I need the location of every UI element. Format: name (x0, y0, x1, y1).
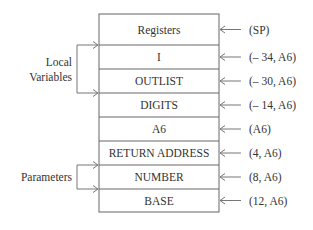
cell-label: RETURN ADDRESS (109, 147, 210, 159)
bracket-line (77, 165, 98, 189)
stack-cell: DIGITS (99, 93, 219, 111)
group-bracket: Parameters (21, 162, 98, 193)
address-label: (4, A6) (249, 147, 282, 160)
address-pointer: (SP) (220, 24, 270, 37)
group-brackets: LocalVariablesParameters (21, 42, 98, 193)
cell-label: DIGITS (140, 99, 178, 111)
stack-cell: BASE (99, 189, 219, 207)
cell-label: BASE (144, 195, 173, 207)
address-pointer: (– 30, A6) (220, 75, 296, 88)
bracket-line (77, 45, 98, 93)
cell-label: I (157, 51, 161, 63)
address-pointer: (– 14, A6) (220, 99, 296, 112)
address-pointer: (A6) (220, 123, 271, 136)
group-label: Variables (29, 71, 72, 83)
cell-label: NUMBER (134, 171, 184, 183)
address-label: (8, A6) (249, 171, 282, 184)
stack-cell: I (99, 45, 219, 63)
cell-label: Registers (138, 24, 181, 37)
cell-label: A6 (152, 123, 166, 135)
address-pointer: (– 34, A6) (220, 51, 296, 64)
address-label: (– 30, A6) (249, 75, 296, 88)
address-pointer: (8, A6) (220, 171, 282, 184)
stack-cell: OUTLIST (99, 69, 219, 87)
address-label: (12, A6) (249, 195, 288, 208)
address-label: (SP) (249, 24, 270, 37)
stack-cell: RETURN ADDRESS (99, 141, 219, 159)
group-label: Local (46, 56, 72, 68)
stack-cells: RegistersIOUTLISTDIGITSA6RETURN ADDRESSN… (99, 14, 219, 212)
stack-frame-diagram: RegistersIOUTLISTDIGITSA6RETURN ADDRESSN… (0, 0, 313, 230)
cell-label: OUTLIST (135, 75, 183, 87)
group-bracket: LocalVariables (29, 42, 98, 97)
address-label: (– 34, A6) (249, 51, 296, 64)
stack-cell: A6 (99, 117, 219, 135)
address-pointers: (SP)(– 34, A6)(– 30, A6)(– 14, A6)(A6)(4… (220, 24, 296, 208)
address-label: (A6) (249, 123, 271, 136)
group-label: Parameters (21, 171, 73, 183)
stack-cell: NUMBER (99, 165, 219, 183)
stack-cell: Registers (138, 24, 181, 37)
address-pointer: (12, A6) (220, 195, 288, 208)
address-pointer: (4, A6) (220, 147, 282, 160)
address-label: (– 14, A6) (249, 99, 296, 112)
